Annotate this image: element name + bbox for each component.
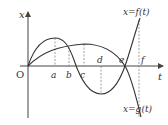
t-axis-label: t bbox=[158, 71, 163, 82]
label-b: b bbox=[66, 70, 72, 80]
position-time-graph: x t O a b c d e f x=f(t) x=g(t) bbox=[0, 0, 168, 125]
curve-f-label: x=f(t) bbox=[123, 7, 150, 17]
label-a: a bbox=[51, 70, 56, 80]
curve-g-label: x=g(t) bbox=[123, 104, 153, 114]
x-axis-label: x bbox=[19, 9, 25, 20]
label-c: c bbox=[80, 70, 85, 80]
label-e: e bbox=[119, 55, 124, 65]
label-f: f bbox=[140, 55, 146, 65]
origin-label: O bbox=[16, 69, 24, 80]
label-d: d bbox=[97, 55, 103, 65]
